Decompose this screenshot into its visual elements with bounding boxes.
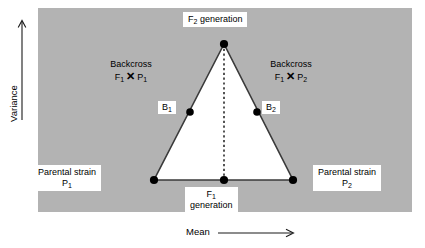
- y-axis-arrow-head: [18, 21, 26, 28]
- backcross-left-parent-a-subscript: 1: [120, 76, 124, 83]
- label-b1: B1: [158, 101, 176, 114]
- variance-mean-triangle-figure: F2 generation B1 B2 Parental strain P1 P…: [0, 0, 425, 248]
- label-f1-subscript: 1: [212, 193, 216, 200]
- x-axis-label: Mean: [186, 226, 210, 237]
- backcross-right-title: Backcross: [270, 59, 312, 69]
- label-f2-generation: F2 generation: [183, 12, 247, 27]
- label-p2-line1: Parental strain: [318, 167, 376, 177]
- label-f1-generation: F1 generation: [185, 187, 238, 213]
- label-p1-subscript: 1: [68, 182, 72, 189]
- label-p2-subscript: 2: [348, 182, 352, 189]
- label-b1-subscript: 1: [168, 106, 172, 113]
- label-b2-subscript: 2: [272, 106, 276, 113]
- label-p1-line1: Parental strain: [38, 167, 96, 177]
- label-f2-subscript: 2: [194, 18, 198, 25]
- x-axis-arrow-head: [286, 229, 294, 236]
- y-axis-label: Variance: [8, 59, 19, 149]
- label-f2-text: F: [188, 14, 194, 24]
- label-parental-strain-p1: Parental strain P1: [33, 165, 101, 191]
- label-parental-strain-p2: Parental strain P2: [313, 165, 381, 191]
- label-f2-suffix: generation: [197, 14, 242, 24]
- backcross-right-parent-a-subscript: 1: [280, 76, 284, 83]
- multiplication-icon: ✕: [284, 70, 297, 82]
- backcross-left-title: Backcross: [110, 59, 152, 69]
- label-f1-line2: generation: [190, 200, 233, 210]
- annotation-backcross-right: Backcross F1✕P2: [248, 58, 334, 84]
- backcross-left-parent-b-subscript: 1: [143, 76, 147, 83]
- annotation-backcross-left: Backcross F1✕P1: [88, 58, 174, 84]
- multiplication-icon: ✕: [124, 70, 137, 82]
- label-b2: B2: [262, 101, 280, 114]
- backcross-right-parent-b-subscript: 2: [303, 76, 307, 83]
